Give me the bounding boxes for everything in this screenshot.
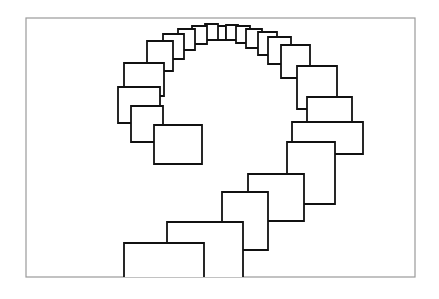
spiral-rectangle (307, 97, 352, 124)
spiral-rectangle (124, 243, 204, 279)
spiral-rectangles-figure (0, 0, 439, 299)
spiral-rectangle (154, 125, 202, 164)
figure-container (0, 0, 439, 299)
